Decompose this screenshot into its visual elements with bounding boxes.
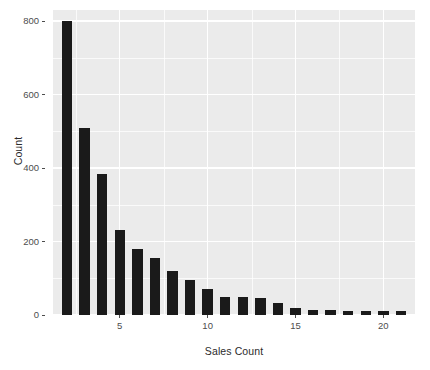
x-axis-tick-mark [383,315,384,318]
x-axis-tick-mark [295,315,296,318]
y-axis-tick-label: 600 [23,89,39,100]
bar [290,308,301,315]
x-axis-tick-label: 10 [202,320,213,331]
bar [185,280,196,315]
bar [220,297,231,315]
gridline-horizontal-minor [53,131,415,132]
y-axis-tick-label: 800 [23,15,39,26]
bar [167,271,178,315]
y-axis-tick-mark [42,94,45,95]
bar [273,303,284,315]
gridline-horizontal-major [53,167,415,168]
x-axis-tick-label: 20 [378,320,389,331]
x-axis-title: Sales Count [53,345,415,357]
gridline-vertical-minor [252,10,253,315]
bar [79,128,90,315]
gridline-horizontal-minor [53,58,415,59]
y-axis-tick-mark [42,241,45,242]
bar [202,289,213,315]
bar [150,258,161,315]
gridline-vertical-minor [339,10,340,315]
y-axis-tick-mark [42,168,45,169]
gridline-vertical-major [383,10,384,315]
gridline-vertical-minor [76,10,77,315]
y-axis-tick-mark [42,21,45,22]
bar [115,230,126,315]
y-axis-tick-labels: 0200400600800 [0,10,45,315]
bar [62,21,73,315]
x-axis-tick-label: 5 [117,320,122,331]
gridline-vertical-minor [164,10,165,315]
x-axis-tick-labels: 5101520 [53,315,415,345]
y-axis-tick-mark [42,315,45,316]
x-axis-tick-label: 15 [290,320,301,331]
y-axis-tick-label: 200 [23,236,39,247]
y-axis-tick-label: 0 [34,309,39,320]
bar-chart: Count 0200400600800 5101520 Sales Count [0,0,430,370]
gridline-vertical-major [207,10,208,315]
bar [132,249,143,315]
bar [238,297,249,315]
x-axis-tick-mark [207,315,208,318]
y-axis-tick-label: 400 [23,162,39,173]
gridline-vertical-major [295,10,296,315]
x-axis-tick-mark [119,315,120,318]
gridline-horizontal-major [53,20,415,21]
bar [255,298,266,315]
bar [97,174,108,315]
plot-panel [53,10,415,315]
gridline-horizontal-major [53,94,415,95]
